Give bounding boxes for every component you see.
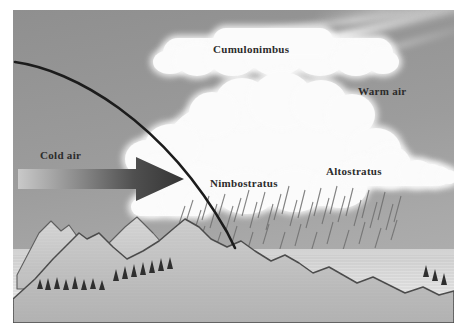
label-cold-air: Cold air: [40, 149, 81, 161]
label-warm-air: Warm air: [358, 85, 407, 97]
weather-front-figure: Cumulonimbus Warm air Cold air Nimbostra…: [0, 0, 465, 327]
cold-air-arrow: [18, 156, 186, 202]
label-nimbostratus: Nimbostratus: [210, 177, 278, 189]
label-cumulonimbus: Cumulonimbus: [213, 43, 289, 55]
illustration-scene: Cumulonimbus Warm air Cold air Nimbostra…: [13, 10, 454, 323]
label-altostratus: Altostratus: [326, 165, 382, 177]
